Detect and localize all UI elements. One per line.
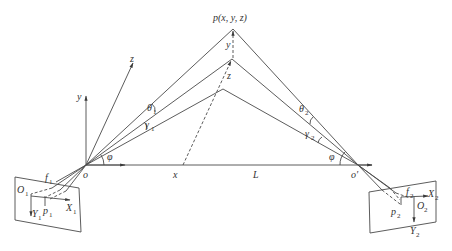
- gamma1-label: γ 1: [145, 119, 155, 133]
- gamma2-label: γ 2: [305, 128, 315, 142]
- p2-label: p 2: [390, 206, 401, 220]
- X1-subscript: 1: [73, 208, 77, 216]
- f1-subscript: 1: [49, 178, 53, 186]
- f1-label: f 1: [45, 172, 53, 186]
- gamma2-arc: [318, 137, 322, 143]
- X1-axis: [31, 196, 70, 200]
- p1-symbol: p: [42, 205, 48, 216]
- theta2-symbol: θ: [299, 103, 304, 114]
- right-origin-label: o′: [351, 169, 359, 180]
- O1-label: O 1: [17, 184, 29, 198]
- y-axis-label: y: [76, 91, 82, 102]
- O1-subscript: 1: [25, 190, 29, 198]
- left-rays: [52, 29, 233, 191]
- stereo-vision-diagram: p(x, y, z) y z z y x L o o′ φ φ θ 1 γ 1 …: [0, 0, 452, 251]
- gamma1-subscript: 1: [151, 125, 155, 133]
- p1-label: p 1: [42, 205, 53, 219]
- Y1-subscript: 1: [38, 214, 42, 222]
- y-component-label: y: [225, 39, 231, 50]
- O2-subscript: 2: [424, 206, 428, 214]
- theta2-subscript: 2: [305, 109, 309, 117]
- baseline-label: L: [252, 169, 259, 180]
- p1-subscript: 1: [49, 211, 53, 219]
- gamma2-subscript: 2: [311, 134, 315, 142]
- Y2-label: Y 2: [410, 225, 420, 239]
- point-label: p(x, y, z): [212, 12, 248, 24]
- O2-label: O 2: [417, 200, 428, 214]
- theta1-subscript: 1: [153, 108, 157, 116]
- phi-right-label: φ: [329, 151, 335, 162]
- phi-left-label: φ: [107, 151, 113, 162]
- X2-label: X 2: [427, 188, 439, 202]
- f2-label: f 2: [406, 186, 414, 200]
- theta1-symbol: θ: [147, 102, 152, 113]
- z-component-label: z: [226, 70, 231, 81]
- right-rays: [223, 29, 396, 193]
- Y1-label: Y 1: [32, 208, 42, 222]
- x-axis-label: x: [172, 169, 178, 180]
- left-origin-label: o: [83, 169, 88, 180]
- theta2-label: θ 2: [299, 103, 309, 117]
- p2-subscript: 2: [397, 212, 401, 220]
- Y2-subscript: 2: [416, 231, 420, 239]
- f2-subscript: 2: [410, 192, 414, 200]
- gamma1-symbol: γ: [145, 119, 150, 130]
- p2-symbol: p: [390, 206, 396, 217]
- X1-symbol: X: [65, 202, 73, 213]
- z-axis: [86, 63, 133, 165]
- X2-symbol: X: [427, 188, 435, 199]
- X2-subscript: 2: [435, 194, 439, 202]
- X1-label: X 1: [65, 202, 77, 216]
- theta2-arc: [310, 117, 313, 124]
- z-axis-label: z: [129, 53, 134, 64]
- phi-arc-left: [101, 155, 104, 165]
- O1-symbol: O: [17, 184, 24, 195]
